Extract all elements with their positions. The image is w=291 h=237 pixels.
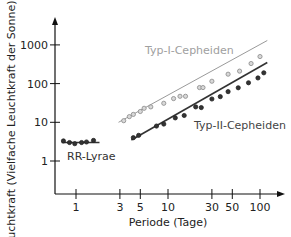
data-point — [127, 115, 131, 119]
x-tick-label: 30 — [205, 201, 219, 214]
data-point — [201, 85, 205, 89]
y-tick-label: 1000 — [20, 39, 48, 52]
data-point — [256, 76, 260, 80]
label-rr-lyrae: RR-Lyrae — [67, 150, 116, 163]
data-point — [246, 81, 250, 85]
series-rr-lyrae — [61, 138, 99, 145]
data-point — [154, 124, 158, 128]
data-point — [131, 112, 135, 116]
data-point — [178, 94, 182, 98]
y-axis-arrow-icon — [52, 17, 58, 25]
data-point — [84, 140, 88, 144]
data-point — [61, 139, 65, 143]
data-point — [218, 95, 222, 99]
data-point — [173, 116, 177, 120]
x-tick-label: 100 — [250, 201, 271, 214]
data-point — [182, 113, 186, 117]
data-point — [210, 97, 214, 101]
data-point — [79, 140, 83, 144]
x-axis-title: Periode (Tage) — [129, 216, 208, 229]
data-point — [236, 86, 240, 90]
x-tick-label: 3 — [116, 201, 123, 214]
data-point — [162, 101, 166, 105]
data-point — [226, 72, 230, 76]
data-point — [67, 140, 71, 144]
data-point — [73, 142, 77, 146]
period-luminosity-chart: 1101001000135103050100 Leuchtkraft (Viel… — [0, 0, 291, 237]
y-axis-title: Leuchtkraft (Vielfache Leuchtkraft der S… — [5, 0, 18, 237]
x-tick-label: 1 — [73, 201, 80, 214]
x-tick-label: 10 — [161, 201, 175, 214]
label-typ1-cepheids: Typ-I-Cepheiden — [144, 44, 234, 57]
data-point — [183, 94, 187, 98]
y-tick-label: 10 — [34, 116, 48, 129]
x-tick-label: 50 — [225, 201, 239, 214]
data-point — [142, 106, 146, 110]
data-point — [210, 79, 214, 83]
data-point — [138, 109, 142, 113]
data-point — [171, 96, 175, 100]
data-point — [199, 105, 203, 109]
data-point — [131, 136, 135, 140]
y-tick-label: 1 — [41, 155, 48, 168]
y-tick-label: 100 — [27, 78, 48, 91]
x-tick-label: 5 — [137, 201, 144, 214]
data-point — [162, 122, 166, 126]
data-point — [226, 90, 230, 94]
data-point — [194, 105, 198, 109]
x-axis-arrow-icon — [277, 191, 285, 197]
data-point — [237, 69, 241, 73]
data-point — [249, 61, 253, 65]
data-point — [262, 71, 266, 75]
data-point — [149, 105, 153, 109]
data-point — [91, 138, 95, 142]
data-point — [137, 133, 141, 137]
data-point — [258, 54, 262, 58]
data-point — [122, 119, 126, 123]
label-typ2-cepheids: Typ-II-Cepheiden — [193, 119, 286, 132]
